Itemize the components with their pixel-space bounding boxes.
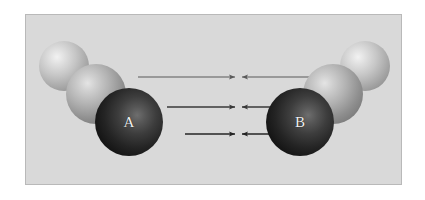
figure-root: A B: [0, 0, 425, 200]
sphere-b-core: B: [266, 88, 334, 156]
diagram-panel: A B: [25, 14, 402, 185]
sphere-a-core: A: [95, 88, 163, 156]
sphere-label-a: A: [95, 88, 163, 156]
sphere-label-b: B: [266, 88, 334, 156]
